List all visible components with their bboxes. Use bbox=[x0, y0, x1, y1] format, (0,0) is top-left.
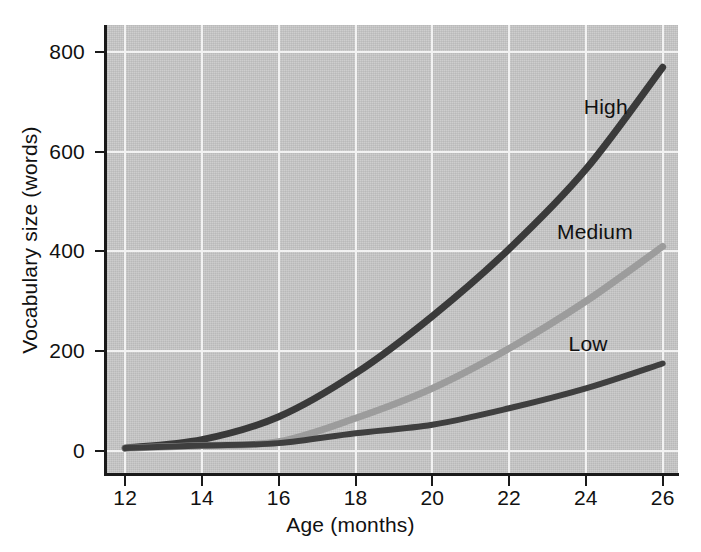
x-tick-label-20: 20 bbox=[402, 487, 462, 508]
y-tick-200 bbox=[95, 350, 106, 352]
series-label-high: High bbox=[584, 95, 628, 119]
y-axis-title: Vocabulary size (words) bbox=[18, 60, 42, 420]
x-tick-26 bbox=[662, 475, 664, 486]
x-tick-24 bbox=[585, 475, 587, 486]
x-tick-label-14: 14 bbox=[172, 487, 232, 508]
x-tick-label-18: 18 bbox=[326, 487, 386, 508]
x-tick-label-12: 12 bbox=[95, 487, 155, 508]
series-label-low: Low bbox=[569, 332, 608, 356]
x-tick-14 bbox=[201, 475, 203, 486]
y-tick-800 bbox=[95, 51, 106, 53]
x-tick-18 bbox=[355, 475, 357, 486]
y-tick-label-400: 400 bbox=[41, 240, 85, 261]
x-tick-12 bbox=[124, 475, 126, 486]
vocabulary-growth-chart: 0200400600800 1214161820222426 HighMediu… bbox=[0, 0, 701, 552]
y-tick-0 bbox=[95, 450, 106, 452]
series-label-medium: Medium bbox=[557, 220, 633, 244]
y-tick-label-800: 800 bbox=[41, 41, 85, 62]
x-tick-16 bbox=[278, 475, 280, 486]
x-tick-label-26: 26 bbox=[633, 487, 693, 508]
y-tick-label-200: 200 bbox=[41, 340, 85, 361]
x-tick-label-22: 22 bbox=[479, 487, 539, 508]
x-tick-20 bbox=[431, 475, 433, 486]
y-tick-label-600: 600 bbox=[41, 141, 85, 162]
y-tick-600 bbox=[95, 151, 106, 153]
x-axis-line bbox=[104, 473, 679, 476]
y-tick-400 bbox=[95, 250, 106, 252]
x-axis-title: Age (months) bbox=[0, 513, 701, 537]
y-tick-label-0: 0 bbox=[41, 440, 85, 461]
x-tick-label-16: 16 bbox=[249, 487, 309, 508]
x-tick-label-24: 24 bbox=[556, 487, 616, 508]
series-curves bbox=[106, 25, 678, 473]
x-tick-22 bbox=[508, 475, 510, 486]
